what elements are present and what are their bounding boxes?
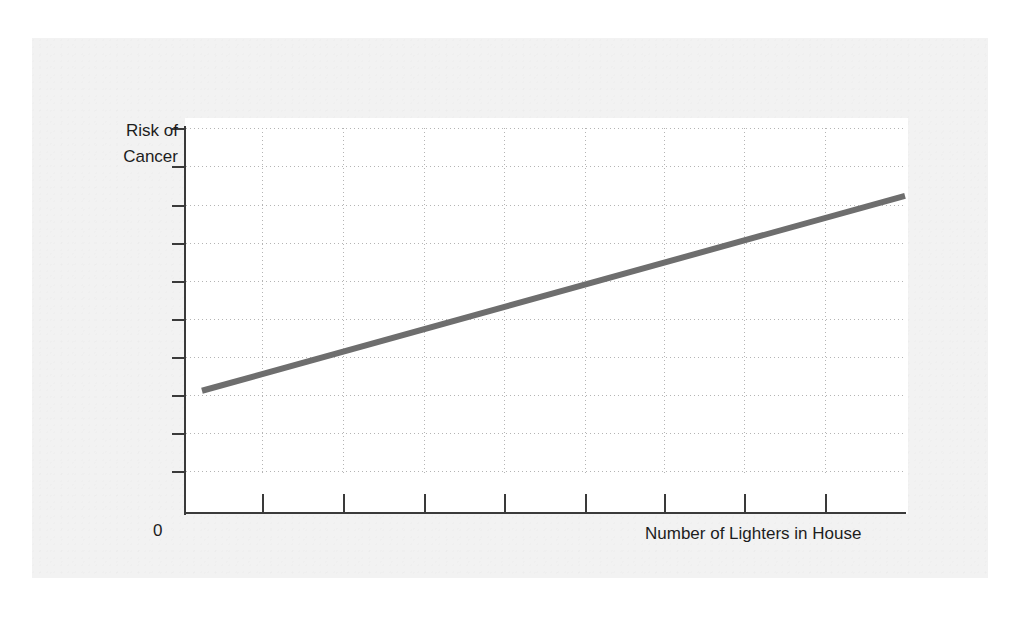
y-axis-title-line1: Risk of — [58, 118, 178, 144]
x-axis-tick — [424, 494, 426, 513]
y-axis-tick — [172, 433, 185, 435]
y-axis-tick — [172, 395, 185, 397]
y-axis-title-line2: Cancer — [58, 144, 178, 170]
y-axis-tick — [172, 471, 185, 473]
y-axis-tick — [172, 319, 185, 321]
x-axis-tick — [825, 494, 827, 513]
x-axis-title: Number of Lighters in House — [645, 524, 861, 544]
y-axis-title: Risk of Cancer — [58, 118, 178, 170]
x-axis-tick — [744, 494, 746, 513]
x-axis-tick — [504, 494, 506, 513]
y-axis-tick — [172, 243, 185, 245]
trend-line-series — [186, 128, 905, 476]
x-axis-tick — [262, 494, 264, 513]
x-axis-line — [184, 512, 906, 514]
x-axis-tick — [343, 494, 345, 513]
x-axis-tick — [664, 494, 666, 513]
x-axis-tick — [585, 494, 587, 513]
origin-label: 0 — [153, 521, 162, 541]
y-axis-tick — [172, 281, 185, 283]
y-axis-tick — [172, 357, 185, 359]
chart-screenshot: Risk of Cancer Number of Lighters in Hou… — [0, 0, 1021, 620]
y-axis-tick — [172, 205, 185, 207]
